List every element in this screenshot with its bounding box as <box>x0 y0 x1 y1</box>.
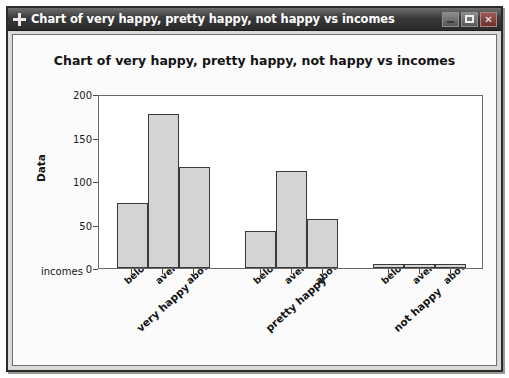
y-tick-label: 50 <box>60 220 92 231</box>
move-crosshair-icon <box>13 13 26 26</box>
bar <box>245 231 276 268</box>
maximize-button[interactable] <box>461 12 478 27</box>
window-controls: ✕ <box>442 12 497 27</box>
bar <box>276 171 307 268</box>
bar <box>179 167 210 268</box>
y-tick-label: 0 <box>60 264 92 275</box>
chart-title: Chart of very happy, pretty happy, not h… <box>13 53 496 68</box>
y-tick-label: 200 <box>60 90 92 101</box>
y-tick-label: 100 <box>60 177 92 188</box>
bar <box>435 264 466 268</box>
y-tick-label: 150 <box>60 133 92 144</box>
chart-canvas: Chart of very happy, pretty happy, not h… <box>12 34 497 366</box>
group-label: not happy <box>391 285 443 334</box>
y-axis-label: Data <box>35 154 47 182</box>
window-titlebar[interactable]: Chart of very happy, pretty happy, not h… <box>8 8 501 31</box>
plot-area <box>98 95 483 269</box>
group-label: pretty happy <box>263 274 328 334</box>
close-icon: ✕ <box>481 13 496 26</box>
close-button[interactable]: ✕ <box>480 12 497 27</box>
bar <box>373 264 404 268</box>
bar <box>117 203 148 268</box>
chart-window: Chart of very happy, pretty happy, not h… <box>6 6 503 372</box>
bar <box>307 219 338 268</box>
bar <box>148 114 179 268</box>
window-title: Chart of very happy, pretty happy, not h… <box>31 12 442 26</box>
bar <box>404 264 435 268</box>
y-tick-mark <box>93 269 98 270</box>
minimize-button[interactable] <box>442 12 459 27</box>
group-label: very happy <box>134 281 191 334</box>
